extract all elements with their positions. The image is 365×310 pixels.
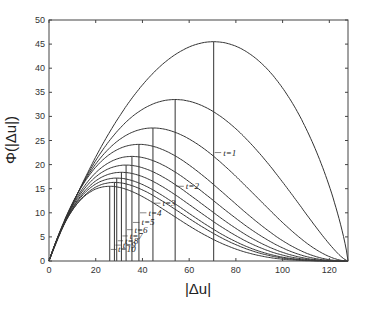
y-tick-label: 35: [35, 87, 45, 97]
y-tick-label: 40: [35, 63, 45, 73]
annotations: t=1t=2t=3t=4t=5t=6t=7t=8t=9t=10: [111, 148, 237, 255]
line-chart: t=1t=2t=3t=4t=5t=6t=7t=8t=9t=10 02040608…: [0, 0, 365, 310]
chart-container: t=1t=2t=3t=4t=5t=6t=7t=8t=9t=10 02040608…: [0, 0, 365, 310]
series-label: t=1: [223, 148, 236, 158]
y-axis-label: Φ(|Δu|): [2, 116, 19, 164]
y-tick-label: 10: [35, 208, 45, 218]
series-label: t=4: [148, 208, 162, 218]
series-curve: [49, 182, 348, 261]
x-axis-label: |Δu|: [185, 280, 211, 297]
series-curve: [49, 128, 348, 261]
series-label: t=3: [162, 198, 176, 208]
series-label: t=2: [186, 181, 200, 191]
y-tick-label: 30: [35, 111, 45, 121]
x-axis-ticks: 020406080100120: [46, 20, 336, 275]
x-tick-label: 60: [184, 265, 194, 275]
series-curve: [49, 42, 348, 261]
series-curve: [49, 186, 348, 261]
x-tick-label: 80: [231, 265, 241, 275]
series-curve: [49, 165, 348, 261]
y-tick-label: 5: [40, 232, 45, 242]
y-tick-label: 20: [35, 160, 45, 170]
y-tick-label: 15: [35, 184, 45, 194]
x-tick-label: 20: [91, 265, 101, 275]
peak-lines: [110, 42, 214, 261]
x-tick-label: 0: [46, 265, 51, 275]
y-tick-label: 45: [35, 39, 45, 49]
y-tick-label: 0: [40, 256, 45, 266]
y-tick-label: 50: [35, 15, 45, 25]
y-tick-label: 25: [35, 136, 45, 146]
series-curve: [49, 144, 348, 261]
series-label: t=10: [118, 244, 136, 254]
x-tick-label: 100: [275, 265, 290, 275]
x-tick-label: 40: [137, 265, 147, 275]
curves: [49, 42, 348, 261]
x-tick-label: 120: [322, 265, 337, 275]
